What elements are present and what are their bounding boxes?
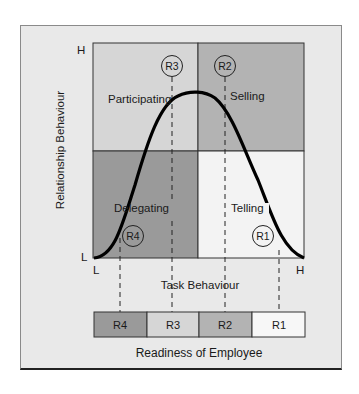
svg-text:R1: R1 bbox=[256, 230, 270, 242]
readiness-segment-r1: R1 bbox=[272, 319, 286, 331]
readiness-circle-r1: R1 bbox=[253, 226, 274, 247]
x-axis-low: L bbox=[93, 264, 100, 276]
situational-leadership-diagram: Participating Selling Delegating Telling… bbox=[0, 0, 359, 394]
readiness-bar-title: Readiness of Employee bbox=[136, 346, 263, 360]
readiness-bar: R4 R3 R2 R1 bbox=[94, 312, 305, 337]
x-axis-high: H bbox=[296, 264, 304, 276]
readiness-circle-r3: R3 bbox=[162, 56, 183, 77]
readiness-segment-r3: R3 bbox=[166, 319, 180, 331]
readiness-segment-r4: R4 bbox=[113, 319, 127, 331]
label-selling: Selling bbox=[230, 90, 265, 102]
y-axis-title: Relationship Behaviour bbox=[54, 91, 66, 209]
svg-text:R4: R4 bbox=[126, 230, 140, 242]
svg-text:R3: R3 bbox=[165, 60, 179, 72]
label-delegating: Delegating bbox=[114, 202, 169, 214]
y-axis-high: H bbox=[77, 44, 85, 56]
svg-text:R2: R2 bbox=[218, 60, 232, 72]
readiness-segment-r2: R2 bbox=[218, 319, 232, 331]
label-telling: Telling bbox=[231, 202, 264, 214]
readiness-circle-r4: R4 bbox=[123, 226, 144, 247]
readiness-circle-r2: R2 bbox=[215, 56, 236, 77]
label-participating: Participating bbox=[108, 93, 171, 105]
y-axis-low: L bbox=[81, 251, 88, 263]
x-axis-title: Task Behaviour bbox=[161, 279, 240, 291]
